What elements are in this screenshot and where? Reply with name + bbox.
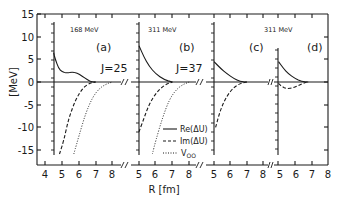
legend-im: Im(ΔU) [180, 137, 208, 146]
curve-dashed [60, 82, 96, 154]
x-tick: 6 [293, 169, 299, 180]
panel-label-c: (c) [249, 41, 264, 54]
y-tick: 5 [28, 54, 34, 65]
panel-label-b: (b) [179, 41, 195, 54]
x-tick: 7 [244, 169, 250, 180]
x-tick: 7 [309, 169, 315, 180]
figure: Re(ΔU) Im(ΔU) VOO 15 10 5 0 -5 -10 -15 [… [0, 0, 352, 200]
y-tick: -15 [18, 145, 34, 156]
x-tick: 6 [76, 169, 82, 180]
x-tick: 7 [93, 169, 99, 180]
y-tick: 0 [28, 77, 34, 88]
legend-v: VOO [181, 149, 196, 159]
x-tick: 4 [42, 169, 48, 180]
y-tick-labels: 15 10 5 0 -5 -10 -15 [18, 9, 34, 156]
x-tick: 8 [109, 169, 115, 180]
panel-label-a: (a) [96, 41, 111, 54]
axis-break-markers [121, 79, 273, 168]
right-axis-ticks [324, 37, 328, 150]
x-axis-label: R [fm] [148, 184, 179, 195]
y-tick: 15 [21, 9, 34, 20]
x-tick: 6 [227, 169, 233, 180]
curve-solid [214, 62, 247, 82]
panel-label-d: (d) [307, 41, 323, 54]
y-tick: -5 [24, 100, 34, 111]
x-tick: 5 [277, 169, 283, 180]
x-tick: 7 [169, 169, 175, 180]
legend-re: Re(ΔU) [180, 125, 208, 134]
energy-label-c: 311 MeV [264, 26, 293, 34]
x-tick: 5 [136, 169, 142, 180]
x-tick: 5 [211, 169, 217, 180]
energy-label-b: 311 MeV [148, 26, 177, 34]
x-tick: 8 [186, 169, 192, 180]
curve-dashed [216, 82, 247, 127]
x-tick-labels: 4 5 6 7 8 5 6 7 8 5 6 7 8 5 6 7 8 [42, 169, 331, 180]
energy-label-a: 168 MeV [70, 26, 99, 34]
curve-dashed [279, 82, 307, 88]
curve-dotted [74, 82, 113, 154]
y-axis-label: [MeV] [8, 67, 19, 97]
curve-solid [139, 46, 172, 82]
curve-dashed [139, 82, 172, 132]
legend [163, 129, 177, 153]
curve-solid [279, 62, 309, 82]
top-axis-ticks [45, 14, 312, 18]
x-tick: 8 [325, 169, 331, 180]
x-tick: 6 [152, 169, 158, 180]
x-tick: 8 [260, 169, 266, 180]
y-axis-ticks [37, 14, 41, 150]
curve-solid [54, 53, 96, 82]
y-tick: 10 [21, 32, 34, 43]
x-tick: 5 [59, 169, 65, 180]
j-label-a: J=25 [100, 62, 127, 75]
y-tick: -10 [18, 122, 34, 133]
j-label-b: J=37 [175, 62, 202, 75]
